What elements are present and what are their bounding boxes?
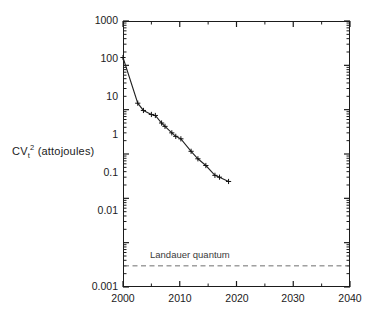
y-tick-label: 1000 [95, 15, 118, 26]
y-axis-title: CVt2 (attojoules) [12, 145, 94, 157]
x-tick-2020: 2020 [217, 292, 257, 304]
x-tick-2030: 2030 [273, 292, 313, 304]
landauer-quantum-label: Landauer quantum [150, 249, 230, 260]
y-tick-1: 1 [70, 129, 118, 140]
x-tick-2040: 2040 [330, 292, 370, 304]
y-tick-1000: 1000 [70, 15, 118, 26]
y-axis-title-base: CV [12, 145, 28, 157]
y-tick-label: 10 [106, 91, 118, 102]
y-tick-10: 10 [70, 91, 118, 102]
y-tick-label: 1 [112, 129, 118, 140]
y-tick-0.001: 0.001 [70, 281, 118, 292]
y-tick-0.01: 0.01 [70, 205, 118, 216]
x-tick-2000: 2000 [103, 292, 143, 304]
chart-figure: 1000 100 10 1 0.1 0.01 0.001 2000 2010 2… [0, 0, 378, 324]
y-tick-label: 100 [100, 53, 118, 64]
y-tick-label: 0.1 [103, 167, 118, 178]
y-tick-label: 0.01 [98, 205, 118, 216]
plot-area [123, 21, 350, 287]
y-tick-label: 0.001 [92, 281, 118, 292]
y-tick-100: 100 [70, 53, 118, 64]
y-tick-0.1: 0.1 [70, 167, 118, 178]
x-tick-2010: 2010 [160, 292, 200, 304]
y-axis-title-units: (attojoules) [38, 145, 95, 157]
y-axis-title-subscript: t [28, 151, 30, 160]
y-axis-title-superscript: 2 [30, 143, 34, 152]
